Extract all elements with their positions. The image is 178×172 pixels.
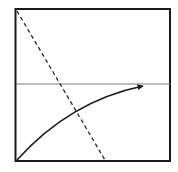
dashed-diagonal-line: [17, 11, 105, 160]
diagram: [0, 0, 178, 172]
curved-arrow: [17, 86, 143, 160]
